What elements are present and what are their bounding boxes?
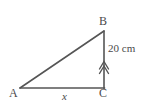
vertex-label-a: A (9, 87, 18, 99)
vertex-label-c: C (99, 87, 107, 99)
vertex-label-b: B (99, 15, 107, 27)
triangle-diagram-canvas (0, 0, 141, 111)
geometry-figure: B A C x 20 cm (0, 0, 141, 111)
triangle-side-hypotenuse-ab (20, 31, 104, 88)
height-measure-label: 20 cm (108, 43, 135, 54)
base-length-label: x (62, 91, 67, 102)
